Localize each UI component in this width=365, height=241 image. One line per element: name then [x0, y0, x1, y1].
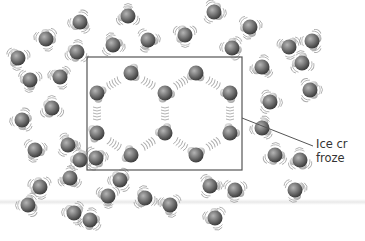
- water-molecule: [300, 77, 322, 103]
- hydrogen-bond: [173, 137, 188, 151]
- water-molecule: [262, 142, 288, 165]
- water-molecule: [101, 32, 126, 57]
- hydrogen-bond: [226, 107, 234, 120]
- water-molecule: [39, 95, 65, 118]
- water-molecule: [88, 125, 104, 142]
- water-molecule: [249, 115, 273, 140]
- hydrogen-bond: [161, 107, 169, 120]
- water-molecule: [115, 3, 141, 25]
- water-molecule: [249, 54, 274, 79]
- water-molecule: [283, 179, 308, 203]
- water-molecule: [6, 47, 31, 71]
- water-molecule: [61, 200, 84, 226]
- water-molecule: [222, 180, 248, 203]
- water-molecule: [9, 107, 33, 132]
- water-molecule: [172, 25, 198, 47]
- water-molecule: [15, 192, 38, 218]
- water-molecule: [223, 123, 240, 140]
- water-molecule: [188, 147, 205, 162]
- hydrogen-bond: [107, 137, 122, 151]
- water-molecule: [18, 69, 44, 92]
- water-molecule: [33, 27, 58, 52]
- hydrogen-bond: [206, 77, 221, 90]
- water-molecule: [187, 66, 204, 82]
- water-molecule: [158, 86, 175, 103]
- water-molecule: [67, 9, 91, 34]
- water-molecule: [95, 186, 121, 209]
- water-molecule: [200, 173, 223, 199]
- hydrogen-bond: [93, 107, 101, 120]
- label-line-1: Ice cr: [316, 137, 348, 151]
- water-molecule: [290, 50, 315, 74]
- water-molecule: [202, 206, 226, 231]
- water-molecule: [124, 64, 140, 81]
- water-molecule: [47, 65, 72, 90]
- water-molecule: [107, 167, 130, 193]
- water-molecule: [85, 146, 109, 171]
- hydrogen-bond: [106, 77, 121, 90]
- water-molecule: [157, 194, 182, 218]
- ice-crystal-frame: [87, 57, 242, 170]
- hydrogen-bond: [141, 137, 156, 151]
- water-molecule: [155, 123, 172, 140]
- water-molecule: [133, 185, 158, 209]
- water-molecule: [299, 28, 321, 54]
- water-molecule: [220, 86, 237, 103]
- water-molecule: [203, 0, 227, 24]
- hydrogen-bond: [206, 137, 221, 151]
- water-molecule: [23, 138, 48, 163]
- molecule-canvas: [0, 0, 365, 241]
- water-ice-diagram: Ice cr froze: [0, 0, 365, 241]
- water-molecule: [137, 28, 161, 53]
- water-molecule: [64, 39, 89, 63]
- water-molecule: [260, 89, 283, 115]
- label-line-2: froze: [316, 151, 345, 165]
- water-molecule: [90, 86, 107, 103]
- hydrogen-bond: [141, 77, 156, 90]
- water-molecule: [238, 15, 263, 40]
- water-molecule: [57, 165, 83, 188]
- water-molecule: [287, 147, 313, 170]
- water-molecule: [276, 36, 301, 60]
- water-molecule: [122, 145, 139, 162]
- hydrogen-bond: [173, 76, 188, 90]
